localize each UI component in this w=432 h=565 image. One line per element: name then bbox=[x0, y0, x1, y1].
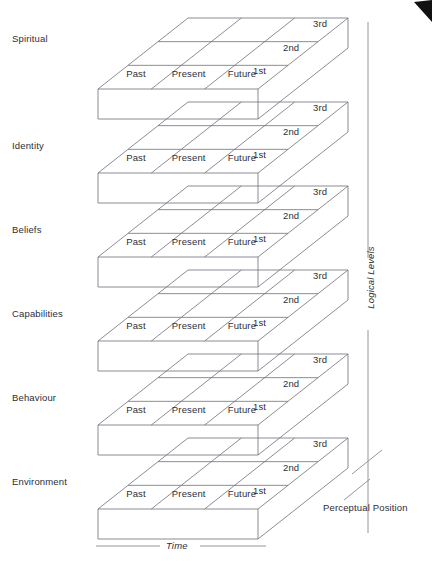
row-label-3rd: 3rd bbox=[313, 270, 327, 281]
column-label-future: Future bbox=[228, 404, 256, 415]
column-label-present: Present bbox=[172, 152, 206, 163]
column-label-present: Present bbox=[172, 68, 206, 79]
level-label-identity: Identity bbox=[12, 140, 44, 151]
row-label-3rd: 3rd bbox=[313, 186, 327, 197]
column-label-present: Present bbox=[172, 320, 206, 331]
column-label-past: Past bbox=[126, 488, 146, 499]
diagram-canvas: Spiritual Identity Beliefs Capabilities … bbox=[0, 0, 432, 565]
column-label-present: Present bbox=[172, 488, 206, 499]
column-label-future: Future bbox=[228, 68, 256, 79]
row-label-2nd: 2nd bbox=[283, 462, 299, 473]
column-label-present: Present bbox=[172, 404, 206, 415]
row-label-2nd: 2nd bbox=[283, 294, 299, 305]
level-label-capabilities: Capabilities bbox=[12, 308, 63, 319]
column-label-past: Past bbox=[126, 152, 146, 163]
row-label-3rd: 3rd bbox=[313, 438, 327, 449]
column-label-past: Past bbox=[126, 236, 146, 247]
row-label-3rd: 3rd bbox=[313, 354, 327, 365]
level-label-environment: Environment bbox=[12, 476, 67, 487]
row-label-2nd: 2nd bbox=[283, 42, 299, 53]
level-label-beliefs: Beliefs bbox=[12, 224, 42, 235]
axis-guides bbox=[96, 22, 382, 546]
row-label-2nd: 2nd bbox=[283, 126, 299, 137]
row-label-3rd: 3rd bbox=[313, 18, 327, 29]
column-label-past: Past bbox=[126, 320, 146, 331]
column-label-future: Future bbox=[228, 152, 256, 163]
column-label-future: Future bbox=[228, 488, 256, 499]
level-label-spiritual: Spiritual bbox=[12, 33, 48, 44]
column-label-future: Future bbox=[228, 320, 256, 331]
axis-label-logical-levels: Logical Levels bbox=[365, 238, 376, 318]
row-label-3rd: 3rd bbox=[313, 102, 327, 113]
stacked-layers bbox=[98, 18, 348, 539]
column-label-future: Future bbox=[228, 236, 256, 247]
axis-label-perceptual-position: Perceptual Position bbox=[323, 502, 408, 513]
column-label-present: Present bbox=[172, 236, 206, 247]
level-label-behaviour: Behaviour bbox=[12, 392, 56, 403]
axis-label-time: Time bbox=[166, 540, 188, 551]
row-label-2nd: 2nd bbox=[283, 210, 299, 221]
column-label-past: Past bbox=[126, 404, 146, 415]
column-label-past: Past bbox=[126, 68, 146, 79]
row-label-2nd: 2nd bbox=[283, 378, 299, 389]
